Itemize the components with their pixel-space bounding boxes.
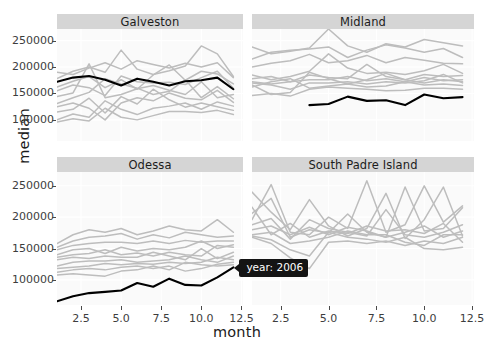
y-tick-label: 200000 — [0, 210, 54, 223]
x-tick-label: 10.0 — [404, 312, 444, 325]
x-tick-label: 5.0 — [309, 312, 349, 325]
x-tick-mark — [161, 306, 162, 310]
x-tick-label: 12.5 — [452, 312, 488, 325]
y-tick-label: 150000 — [0, 86, 54, 99]
y-tick-mark — [52, 280, 56, 281]
year-tooltip: year: 2006 — [239, 259, 308, 277]
highlighted-series-line — [309, 95, 462, 106]
facet-title: Odessa — [128, 158, 171, 172]
background-series-line — [252, 54, 463, 67]
x-tick-mark — [472, 306, 473, 310]
y-tick-label: 250000 — [0, 34, 54, 47]
x-tick-mark — [376, 306, 377, 310]
y-axis-title: median — [16, 86, 32, 186]
x-tick-mark — [424, 306, 425, 310]
x-tick-label: 2.5 — [261, 312, 301, 325]
y-tick-label: 250000 — [0, 179, 54, 192]
facet-title: Galveston — [121, 15, 180, 29]
background-series-line — [57, 232, 233, 247]
y-tick-mark — [52, 186, 56, 187]
facet-panel[interactable] — [57, 29, 243, 141]
highlighted-series-line — [57, 267, 233, 301]
y-tick-mark — [52, 41, 56, 42]
facet-panel[interactable] — [57, 172, 243, 305]
x-tick-label: 7.5 — [356, 312, 396, 325]
x-tick-mark — [201, 306, 202, 310]
x-axis-title: month — [0, 324, 474, 340]
x-tick-mark — [281, 306, 282, 310]
facet-strip-label: Galveston — [57, 14, 243, 29]
facet-strip-label: South Padre Island — [252, 157, 474, 172]
x-tick-mark — [81, 306, 82, 310]
facet-title: Midland — [340, 15, 386, 29]
y-tick-mark — [52, 249, 56, 250]
y-tick-mark — [52, 93, 56, 94]
background-series-line — [57, 89, 233, 113]
facet-strip-label: Midland — [252, 14, 474, 29]
background-series-line — [252, 29, 463, 54]
y-tick-mark — [52, 67, 56, 68]
facet-strip-label: Odessa — [57, 157, 243, 172]
y-tick-label: 150000 — [0, 242, 54, 255]
background-series-line — [57, 220, 233, 244]
x-tick-mark — [121, 306, 122, 310]
x-tick-label: 7.5 — [141, 312, 181, 325]
facet-title: South Padre Island — [308, 158, 417, 172]
x-tick-mark — [329, 306, 330, 310]
y-tick-label: 200000 — [0, 60, 54, 73]
x-tick-mark — [241, 306, 242, 310]
x-tick-label: 12.5 — [221, 312, 261, 325]
y-tick-label: 100000 — [0, 113, 54, 126]
x-tick-label: 5.0 — [101, 312, 141, 325]
y-tick-mark — [52, 217, 56, 218]
y-tick-label: 100000 — [0, 273, 54, 286]
facet-panel[interactable] — [252, 29, 474, 141]
facet-panel[interactable] — [252, 172, 474, 305]
x-tick-label: 2.5 — [61, 312, 101, 325]
x-tick-label: 10.0 — [181, 312, 221, 325]
y-tick-mark — [52, 120, 56, 121]
